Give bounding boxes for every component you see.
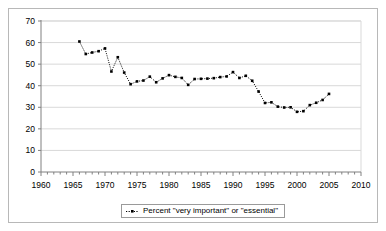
data-point-marker [238, 77, 241, 80]
data-point-marker [213, 77, 216, 80]
line-chart: 010203040506070 196019651970197519801985… [9, 9, 379, 224]
x-tick-label: 2000 [288, 180, 307, 190]
series-line-path [79, 41, 329, 111]
y-tick-label: 70 [26, 16, 36, 26]
data-point-marker [264, 102, 267, 105]
data-point-marker [97, 50, 100, 53]
data-point-marker [174, 76, 177, 79]
x-tick-label: 1975 [128, 180, 147, 190]
data-point-marker [277, 105, 280, 108]
data-point-marker [328, 93, 331, 96]
data-point-marker [245, 74, 248, 77]
data-point-marker [321, 99, 324, 102]
data-point-marker [193, 78, 196, 81]
data-point-marker [136, 80, 139, 83]
data-point-marker [225, 75, 228, 78]
chart-legend: Percent "very important" or "essential" [121, 204, 285, 218]
legend-label: Percent "very important" or "essential" [143, 207, 278, 215]
series-data-markers [78, 40, 330, 113]
data-point-marker [110, 70, 113, 73]
data-point-marker [232, 71, 235, 74]
x-tick-label: 1980 [160, 180, 179, 190]
data-point-marker [85, 53, 88, 56]
y-tick-label: 20 [26, 124, 36, 134]
data-point-marker [309, 104, 312, 107]
x-tick-label: 1995 [256, 180, 275, 190]
data-point-marker [78, 40, 81, 43]
data-point-marker [257, 90, 260, 93]
plot-border [41, 21, 361, 172]
data-point-marker [168, 74, 171, 77]
x-tick-label: 2005 [320, 180, 339, 190]
x-tick-label: 1965 [64, 180, 83, 190]
data-point-marker [91, 51, 94, 54]
data-point-marker [142, 79, 145, 82]
x-axis [41, 172, 361, 176]
data-point-marker [161, 77, 164, 80]
x-tick-label: 1990 [224, 180, 243, 190]
data-point-marker [155, 81, 158, 84]
data-point-marker [129, 83, 132, 86]
data-point-marker [149, 75, 152, 78]
series-path [79, 41, 329, 111]
y-axis [38, 20, 41, 172]
plot-area-wrapper: 010203040506070 196019651970197519801985… [9, 9, 379, 224]
data-point-marker [315, 101, 318, 104]
x-tick-label: 1970 [96, 180, 115, 190]
y-tick-label: 10 [26, 145, 36, 155]
data-point-marker [219, 76, 222, 79]
x-tick-label: 1960 [32, 180, 51, 190]
data-point-marker [181, 77, 184, 80]
data-point-marker [283, 106, 286, 109]
chart-figure: 010203040506070 196019651970197519801985… [8, 8, 378, 223]
data-point-marker [187, 84, 190, 87]
gridlines-group [41, 21, 361, 150]
x-tick-label: 2010 [352, 180, 371, 190]
x-tick-labels: 1960196519701975198019851990199520002005… [32, 180, 371, 190]
data-point-marker [206, 77, 209, 80]
data-point-marker [251, 79, 254, 82]
x-tick-label: 1985 [192, 180, 211, 190]
data-point-marker [302, 110, 305, 113]
data-point-marker [200, 78, 203, 81]
y-tick-label: 50 [26, 59, 36, 69]
data-point-marker [296, 111, 299, 114]
legend-marker-icon [126, 208, 139, 215]
data-point-marker [289, 106, 292, 109]
data-point-marker [104, 47, 107, 50]
y-tick-labels: 010203040506070 [26, 16, 36, 177]
data-point-marker [123, 71, 126, 74]
data-point-marker [117, 56, 120, 59]
y-tick-label: 0 [30, 167, 35, 177]
y-tick-label: 30 [26, 102, 36, 112]
data-point-marker [270, 101, 273, 104]
y-tick-label: 40 [26, 81, 36, 91]
y-tick-label: 60 [26, 38, 36, 48]
